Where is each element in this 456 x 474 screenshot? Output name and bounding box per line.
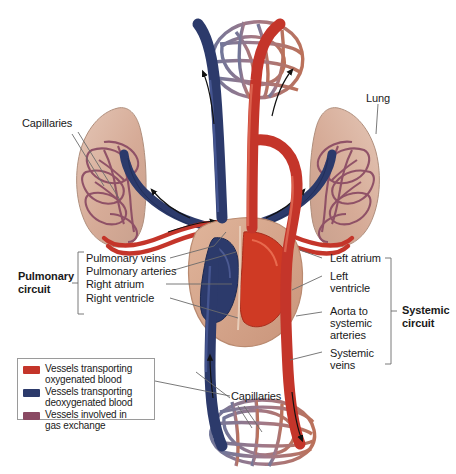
pulmonary-veins-label: Pulmonary veins	[86, 252, 166, 265]
legend-swatch-oxygenated	[23, 366, 40, 374]
legend-label-deoxygenated-line2: deoxygenated blood	[45, 397, 132, 408]
lung-label: Lung	[366, 92, 390, 105]
pulmonary-circuit-label-line1: Pulmonary	[18, 270, 74, 283]
legend-label-deoxygenated-line1: Vessels transporting	[45, 386, 132, 397]
left-ventricle-label-line2: ventricle	[330, 282, 370, 295]
right-atrium-label: Right atrium	[86, 278, 144, 291]
right-ventricle-label: Right ventricle	[86, 292, 154, 305]
left-ventricle-label-line1: Left	[330, 270, 348, 283]
systemic-circuit-label-line2: circuit	[402, 317, 434, 330]
aorta-label-line2: systemic	[330, 317, 372, 330]
legend-swatch-deoxygenated	[23, 389, 40, 397]
aorta-label-line1: Aorta to	[330, 305, 368, 318]
capillaries-top-left-label: Capillaries	[22, 117, 72, 130]
pulmonary-arteries-label: Pulmonary arteries	[86, 265, 177, 278]
systemic-circuit-label-line1: Systemic	[402, 304, 450, 317]
diagram-canvas: Capillaries Lung Pulmonary circuit Pulmo…	[0, 0, 456, 474]
legend-swatch-gas-exchange	[23, 412, 40, 420]
legend-item-gas-exchange: Vessels involved in gas exchange	[23, 409, 150, 431]
left-atrium-label: Left atrium	[330, 252, 381, 265]
legend-label-oxygenated-line1: Vessels transporting	[45, 363, 132, 374]
legend: Vessels transporting oxygenated blood Ve…	[17, 358, 155, 420]
systemic-circuit-bracket	[385, 258, 397, 364]
systemic-veins-label-line1: Systemic	[330, 347, 374, 360]
legend-item-oxygenated: Vessels transporting oxygenated blood	[23, 363, 150, 385]
legend-label-gas-exchange-line2: gas exchange	[45, 420, 105, 431]
systemic-veins-label-line2: veins	[330, 359, 355, 372]
capillaries-bottom-label: Capillaries	[231, 390, 281, 403]
legend-label-gas-exchange-line1: Vessels involved in	[45, 409, 127, 420]
legend-item-deoxygenated: Vessels transporting deoxygenated blood	[23, 386, 150, 408]
aorta-label-line3: arteries	[330, 329, 366, 342]
legend-label-oxygenated-line2: oxygenated blood	[45, 374, 122, 385]
pulmonary-circuit-bracket	[72, 252, 84, 314]
pulmonary-circuit-label-line2: circuit	[18, 283, 50, 296]
